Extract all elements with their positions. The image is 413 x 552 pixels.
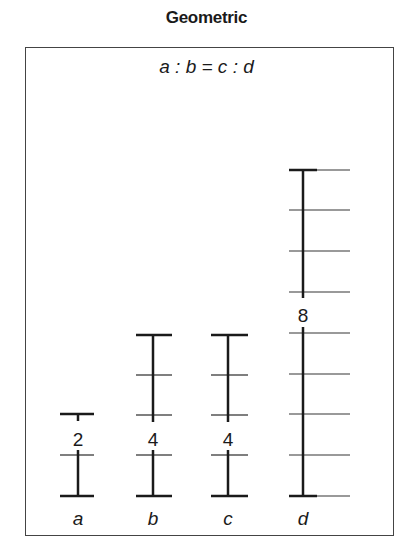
column-c-value: 4 [223, 429, 234, 450]
column-b-value: 4 [148, 429, 159, 450]
column-c-label: c [223, 508, 233, 529]
column-c: 4 c [211, 335, 248, 529]
proportion-bars: 2 a 4 b 4 c [0, 0, 413, 552]
column-d-value: 8 [298, 305, 309, 326]
column-b-label: b [148, 508, 159, 529]
column-a-label: a [73, 508, 84, 529]
column-b: 4 b [136, 335, 172, 529]
column-a: 2 a [60, 414, 94, 529]
column-d: 8 d [289, 170, 350, 529]
column-a-value: 2 [73, 429, 84, 450]
column-d-label: d [298, 508, 310, 529]
